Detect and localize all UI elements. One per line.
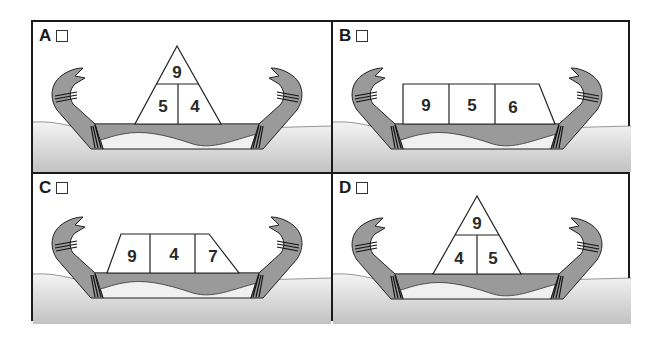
option-letter: B <box>339 26 351 46</box>
option-d-checkbox[interactable] <box>356 182 368 194</box>
block-middle-number: 4 <box>169 245 179 264</box>
block-left-number: 9 <box>421 96 430 115</box>
block-right-number: 7 <box>208 247 217 266</box>
block-left-number: 4 <box>454 249 464 268</box>
figure-frame: 9 5 4 A <box>31 20 630 321</box>
option-c-panel[interactable]: 9 4 7 C <box>33 174 331 324</box>
option-c-label: C <box>39 178 68 198</box>
option-letter: C <box>39 178 51 198</box>
boat-illustration: 9 5 6 <box>333 22 631 172</box>
option-a-label: A <box>39 26 68 46</box>
option-c-checkbox[interactable] <box>56 182 68 194</box>
block-middle-number: 5 <box>467 96 476 115</box>
block-left-number: 5 <box>158 97 167 116</box>
vertical-divider <box>331 22 333 319</box>
block-left-number: 9 <box>127 247 136 266</box>
option-d-label: D <box>339 178 368 198</box>
option-b-label: B <box>339 26 368 46</box>
block-right-number: 6 <box>508 98 517 117</box>
horizontal-divider <box>33 172 628 174</box>
option-b-checkbox[interactable] <box>356 30 368 42</box>
boat-illustration: 9 4 5 <box>333 174 631 324</box>
block-right-number: 5 <box>488 249 497 268</box>
option-b-panel[interactable]: 9 5 6 B <box>333 22 631 172</box>
block-right-number: 4 <box>190 97 200 116</box>
boat-illustration: 9 4 7 <box>33 174 331 324</box>
boat-illustration: 9 5 4 <box>33 22 331 172</box>
option-a-checkbox[interactable] <box>56 30 68 42</box>
option-a-panel[interactable]: 9 5 4 A <box>33 22 331 172</box>
option-letter: D <box>339 178 351 198</box>
option-letter: A <box>39 26 51 46</box>
block-top-number: 9 <box>172 63 181 82</box>
block-top-number: 9 <box>472 214 481 233</box>
option-d-panel[interactable]: 9 4 5 D <box>333 174 631 324</box>
